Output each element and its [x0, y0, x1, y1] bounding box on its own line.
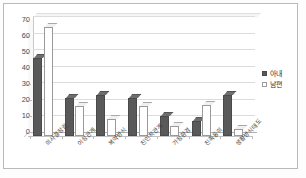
bar-아내-생활방식태도 — [223, 95, 232, 136]
legend-item-남편: 남편 — [262, 79, 302, 90]
legend-swatch-icon — [262, 71, 267, 76]
legend-swatch-icon — [262, 82, 267, 87]
bar-아내-친족동의 — [192, 121, 201, 136]
legend-label: 아내 — [270, 70, 282, 78]
screenshot-root: 010203040506070 의사결정권이성관계복약방식친인척관계가정환경친족… — [0, 0, 306, 178]
bar-face — [44, 27, 53, 136]
bar-top-cap — [203, 101, 215, 105]
bar-남편-의사결정권 — [44, 27, 53, 136]
bar-남편-친족동의 — [202, 105, 211, 136]
bar-top-cap — [161, 112, 173, 116]
x-axis-tick-mark — [30, 136, 31, 139]
bar-top-cap — [140, 102, 152, 106]
x-axis-tick-mark — [93, 136, 94, 139]
bar-아내-친인척관계 — [128, 98, 137, 136]
bar-top-cap — [45, 23, 57, 27]
bar-top-cap — [108, 115, 120, 119]
legend-label: 남편 — [270, 81, 282, 89]
bar-face — [128, 98, 137, 136]
x-axis-tick-mark — [157, 136, 158, 139]
x-axis-tick-mark — [220, 136, 221, 139]
bar-아내-복약방식 — [96, 95, 105, 136]
bar-top-cap — [171, 122, 183, 126]
bar-chart: 010203040506070 의사결정권이성관계복약방식친인척관계가정환경친족… — [0, 0, 306, 178]
bar-아내-의사결정권 — [33, 58, 42, 136]
bar-top-cap — [129, 94, 141, 98]
chart-legend: 아내남편 — [262, 68, 302, 90]
x-axis-tick-mark — [125, 136, 126, 139]
legend-item-아내: 아내 — [262, 68, 302, 79]
bar-face — [192, 121, 201, 136]
bar-top-cap — [76, 102, 88, 106]
x-axis-tick-mark — [189, 136, 190, 139]
bar-top-cap — [66, 94, 78, 98]
bar-top-cap — [224, 91, 236, 95]
bar-face — [202, 105, 211, 136]
x-axis-tick-mark — [62, 136, 63, 139]
bar-face — [33, 58, 42, 136]
bar-face — [96, 95, 105, 136]
bar-face — [223, 95, 232, 136]
x-axis-tick-mark — [252, 136, 253, 139]
bar-series-container — [0, 0, 306, 178]
bar-top-cap — [97, 91, 109, 95]
